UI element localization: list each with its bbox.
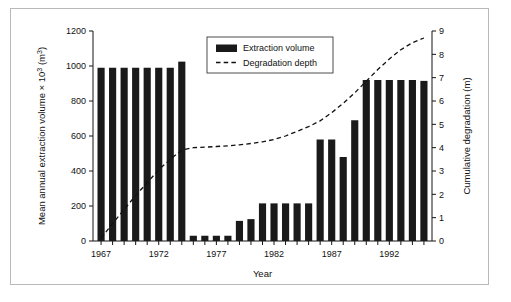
bar	[190, 236, 197, 241]
bar	[236, 221, 243, 241]
bar	[386, 80, 393, 241]
bar	[294, 203, 301, 241]
bar	[363, 80, 370, 241]
bar	[201, 236, 208, 241]
legend-swatch-extraction-volume	[216, 45, 237, 53]
bar	[213, 236, 220, 241]
bar	[167, 68, 174, 241]
y-axis-left-tick-label: 1200	[66, 26, 86, 36]
x-axis-tick-label: 1987	[322, 249, 342, 259]
bar	[409, 80, 416, 241]
bar	[340, 157, 347, 241]
legend-label-degradation-depth: Degradation depth	[243, 58, 317, 68]
bar	[247, 219, 254, 241]
y-axis-right-tick-label: 6	[439, 96, 444, 106]
bar	[132, 68, 139, 241]
bar	[109, 68, 116, 241]
bar	[224, 236, 231, 241]
y-axis-right-tick-label: 7	[439, 73, 444, 83]
dual-axis-chart: 0200400600800100012000123456789196719721…	[11, 9, 490, 286]
bar	[305, 203, 312, 241]
y-axis-right-tick-label: 1	[439, 213, 444, 223]
y-axis-right-tick-label: 5	[439, 120, 444, 130]
bar	[351, 120, 358, 241]
y-axis-right-tick-label: 8	[439, 50, 444, 60]
x-axis-tick-label: 1992	[379, 249, 399, 259]
bar	[328, 140, 335, 242]
y-axis-right-tick-label: 0	[439, 236, 444, 246]
y-axis-left-tick-label: 600	[71, 131, 86, 141]
bar	[155, 68, 162, 241]
bar	[397, 80, 404, 241]
bar	[420, 81, 427, 241]
y-axis-left-tick-label: 400	[71, 166, 86, 176]
x-axis-title: Year	[253, 268, 272, 279]
bar	[282, 203, 289, 241]
y-axis-right-tick-label: 2	[439, 190, 444, 200]
y-axis-right-tick-label: 9	[439, 26, 444, 36]
bar	[144, 68, 151, 241]
x-axis-tick-label: 1972	[149, 249, 169, 259]
y-axis-right-title: Cumulative degradation (m)	[461, 77, 472, 194]
figure-container: 0200400600800100012000123456789196719721…	[0, 0, 511, 302]
chart-plot-area: 0200400600800100012000123456789196719721…	[11, 9, 490, 286]
x-axis-tick-label: 1977	[206, 249, 226, 259]
bar	[98, 68, 105, 241]
x-axis-tick-label: 1967	[91, 249, 111, 259]
legend-label-extraction-volume: Extraction volume	[243, 43, 315, 53]
bar	[121, 68, 128, 241]
bar	[259, 203, 266, 241]
bar-series-extraction-volume	[98, 62, 428, 241]
bar	[270, 203, 277, 241]
y-axis-left-title: Mean annual extraction volume × 103 (m3)	[36, 47, 47, 225]
x-axis-tick-label: 1982	[264, 249, 284, 259]
y-axis-right-tick-label: 4	[439, 143, 444, 153]
y-axis-left-tick-label: 0	[81, 236, 86, 246]
bar	[374, 80, 381, 241]
bar	[317, 140, 324, 242]
y-axis-left-tick-label: 200	[71, 201, 86, 211]
figure-frame: 0200400600800100012000123456789196719721…	[10, 8, 489, 285]
y-axis-left-tick-label: 1000	[66, 61, 86, 71]
y-axis-left-tick-label: 800	[71, 96, 86, 106]
y-axis-right-tick-label: 3	[439, 166, 444, 176]
